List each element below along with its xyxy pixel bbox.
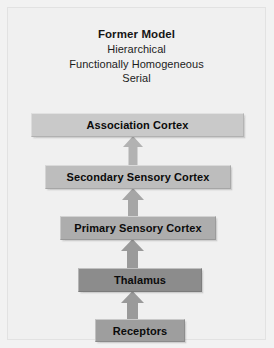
flow-box-receptors[interactable]: Receptors	[95, 319, 185, 342]
flow-box-label-association-cortex: Association Cortex	[86, 119, 188, 131]
flow-box-secondary-sensory-cortex[interactable]: Secondary Sensory Cortex	[45, 165, 231, 189]
title-block: Former Model Hierarchical Functionally H…	[8, 27, 265, 86]
arrow-receptors-to-thalamus	[120, 291, 145, 320]
arrow-primary-to-secondary	[121, 188, 145, 216]
flow-box-label-receptors: Receptors	[113, 325, 168, 337]
subtitle-line-hierarchical: Hierarchical	[8, 42, 265, 57]
flow-box-primary-sensory-cortex[interactable]: Primary Sensory Cortex	[60, 216, 216, 240]
flow-box-label-primary-sensory-cortex: Primary Sensory Cortex	[74, 222, 202, 234]
subtitle-line-functionally-homogeneous: Functionally Homogeneous	[8, 57, 265, 72]
arrow-thalamus-to-primary	[120, 239, 145, 269]
flow-box-label-secondary-sensory-cortex: Secondary Sensory Cortex	[66, 171, 209, 183]
flow-box-thalamus[interactable]: Thalamus	[78, 268, 202, 292]
diagram-title: Former Model	[8, 27, 265, 42]
flow-box-label-thalamus: Thalamus	[114, 274, 166, 286]
flow-box-association-cortex[interactable]: Association Cortex	[31, 113, 244, 137]
arrow-secondary-to-association	[122, 136, 144, 166]
figure-frame: Former Model Hierarchical Functionally H…	[7, 7, 266, 340]
subtitle-line-serial: Serial	[8, 71, 265, 86]
